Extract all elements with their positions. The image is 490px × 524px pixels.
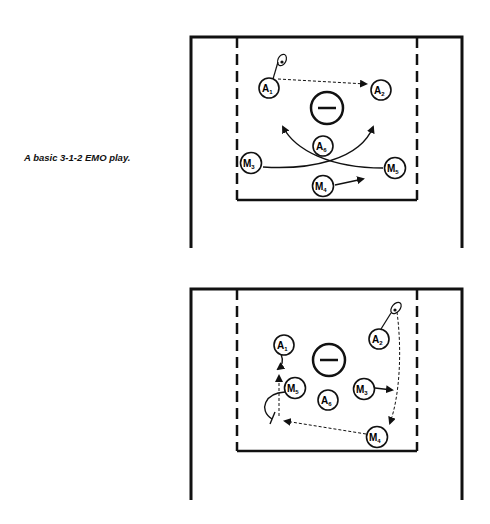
pass-arrow — [278, 79, 366, 84]
goal-icon — [313, 344, 345, 376]
diagram-bottom: A1 A2 M5 A6 M3 M4 — [191, 289, 462, 500]
move-arrow-m3 — [375, 388, 392, 390]
player-M4: M4 — [313, 176, 334, 197]
player-A1: A1 — [274, 335, 294, 355]
roll-arrow-m5 — [265, 392, 285, 419]
pass-arrow-a2-m4 — [390, 312, 400, 423]
player-M3: M3 — [241, 153, 262, 174]
player-M3: M3 — [354, 379, 375, 400]
player-A2: A2 — [371, 80, 391, 100]
stick-icon — [381, 300, 403, 329]
diagram-top: A1 A2 A6 M3 M5 M4 — [191, 37, 462, 248]
player-A2: A2 — [369, 329, 389, 349]
player-A1: A1 — [259, 78, 279, 98]
goal-icon — [311, 92, 343, 124]
cut-arrow-a1 — [278, 354, 282, 369]
diagram-canvas: A1 A2 A6 M3 M5 M4 A1 A2 M5 A6 M — [0, 0, 490, 524]
move-arrow-m4 — [335, 179, 363, 185]
player-M5: M5 — [285, 378, 306, 399]
pass-arrow-m4-left — [285, 421, 366, 434]
player-A6: A6 — [313, 136, 333, 156]
player-A6: A6 — [318, 390, 338, 410]
player-M4: M4 — [367, 427, 388, 448]
player-M5: M5 — [385, 158, 406, 179]
stick-icon — [273, 53, 288, 79]
